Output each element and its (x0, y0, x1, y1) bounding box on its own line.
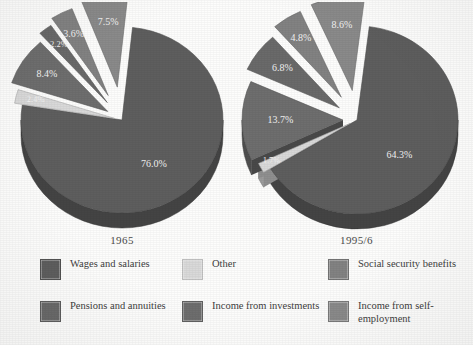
pie-slice-value-label: 8.6% (331, 19, 352, 30)
legend-item-other: Other (182, 258, 328, 280)
legend-swatch-icon (328, 259, 349, 280)
pie-slice-value-label: 8.4% (36, 68, 57, 79)
legend-item-pensions-and-annuities: Pensions and annuities (40, 300, 182, 322)
pie-slice (81, 2, 128, 87)
pie-slice-value-label: 2.2% (50, 39, 68, 49)
legend-item-income-from-self-employment: Income from self-employment (328, 300, 458, 325)
legend-item-social-security-benefits: Social security benefits (328, 258, 458, 280)
pie-1995-6-year-label: 1995/6 (240, 234, 473, 246)
pie-slice-value-label: 64.3% (386, 149, 412, 160)
pie-slice-value-label: 76.0% (141, 158, 167, 169)
legend-item-wages-and-salaries: Wages and salaries (40, 258, 182, 280)
legend-swatch-icon (182, 301, 203, 322)
pie-slice (311, 2, 364, 91)
legend-label: Income from self-employment (358, 300, 458, 325)
pie-slice-value-label: 2.4% (27, 94, 45, 104)
pie-slice-value-label: 7.5% (98, 16, 119, 27)
legend-label: Wages and salaries (70, 258, 150, 271)
chart-legend: Wages and salaries Other Social security… (40, 258, 440, 342)
legend-swatch-icon (328, 301, 349, 322)
legend-swatch-icon (40, 301, 61, 322)
legend-label: Other (212, 258, 236, 271)
legend-swatch-icon (40, 259, 61, 280)
pie-slice-value-label: 13.7% (267, 114, 293, 125)
pie-slice-value-label: 1.7% (263, 155, 281, 165)
pie-slice-value-label: 6.8% (272, 62, 293, 73)
pie-1995-6-svg: 64.3%1.7%13.7%6.8%4.8%8.6% (240, 2, 473, 234)
legend-item-income-from-investments: Income from investments (182, 300, 328, 322)
pie-1965-svg: 76.0%2.4%8.4%2.2%3.6%7.5% (4, 2, 240, 234)
pie-chart-figure: 76.0%2.4%8.4%2.2%3.6%7.5% 1965 64.3%1.7%… (0, 0, 473, 345)
legend-label: Pensions and annuities (70, 300, 166, 313)
legend-label: Social security benefits (358, 258, 456, 271)
pie-slice-value-label: 4.8% (291, 32, 312, 43)
legend-swatch-icon (182, 259, 203, 280)
pie-slice-value-label: 3.6% (63, 28, 84, 39)
pie-1965-year-label: 1965 (4, 234, 240, 246)
pie-chart-1995-6: 64.3%1.7%13.7%6.8%4.8%8.6% 1995/6 (240, 2, 473, 254)
legend-label: Income from investments (212, 300, 319, 313)
pie-chart-1965: 76.0%2.4%8.4%2.2%3.6%7.5% 1965 (4, 2, 240, 254)
